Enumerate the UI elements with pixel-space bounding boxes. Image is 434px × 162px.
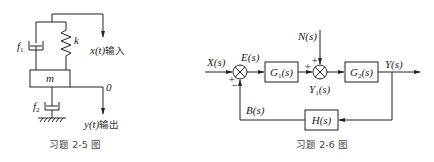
diagram-canvas: f1 k m f2 x(t)输入 0 y(t)输出 习题 2-5 图 G1(s) xyxy=(0,0,434,162)
label-n: N(s) xyxy=(297,30,317,43)
label-k: k xyxy=(74,34,80,46)
label-g2: G2(s) xyxy=(350,66,373,80)
label-f1: f1 xyxy=(17,40,24,54)
label-e: E(s) xyxy=(240,51,260,64)
label-output: y(t)输出 xyxy=(83,118,119,131)
label-g1: G1(s) xyxy=(270,66,293,80)
label-zero: 0 xyxy=(106,81,112,93)
label-y: Y(s) xyxy=(385,58,403,71)
spring-k xyxy=(61,30,71,56)
label-b: B(s) xyxy=(246,104,265,117)
output-arrow xyxy=(70,87,103,114)
label-h: H(s) xyxy=(311,114,332,127)
figure-2-5: f1 k m f2 x(t)输入 0 y(t)输出 习题 2-5 图 xyxy=(17,14,125,150)
label-x: X(s) xyxy=(206,56,226,69)
label-input: x(t)输入 xyxy=(89,44,125,57)
summing-junction-2 xyxy=(313,65,327,79)
label-y1: Y1(s) xyxy=(309,83,331,97)
label-m: m xyxy=(46,72,54,84)
sign-sum2-plus-top: + xyxy=(311,54,318,66)
caption-2-6: 习题 2-6 图 xyxy=(296,139,348,150)
ground-icon xyxy=(38,118,66,122)
caption-2-5: 习题 2-5 图 xyxy=(49,139,101,150)
label-f2: f2 xyxy=(33,100,40,114)
figure-2-6: G1(s) G2(s) H(s) X(s) E(s) N(s) Y1(s) Y(… xyxy=(205,30,420,150)
sign-sum1-minus: − xyxy=(231,79,238,91)
